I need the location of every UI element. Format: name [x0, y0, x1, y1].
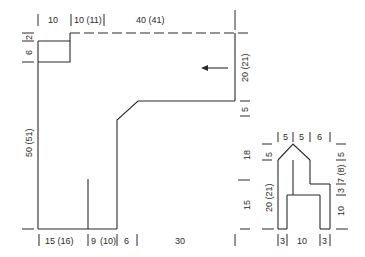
dim-s-bottom-2: 10: [297, 236, 307, 246]
small-right-dimensions: 5 7 (8) 3 10: [336, 144, 348, 229]
small-piece-outline: [278, 144, 330, 229]
dim-s-top-2: 5: [299, 132, 304, 142]
main-top-dimensions: 10 10 (11) 40 (41): [38, 10, 248, 33]
main-bottom-dimensions: 15 (16) 9 (10) 6 30: [39, 229, 250, 246]
small-bottom-dimensions: 3 10 3: [278, 234, 330, 246]
dim-s-top-1: 5: [283, 132, 288, 142]
dim-left-2: 6: [24, 50, 34, 55]
dim-s-bottom-3: 3: [322, 236, 327, 246]
dim-s-left-3: 15: [242, 200, 252, 210]
dim-bottom-4: 6: [124, 236, 129, 246]
dim-right-2: 5: [240, 107, 250, 112]
arrow-left-icon: [201, 65, 228, 71]
dim-left-3: 50 (51): [24, 128, 34, 157]
dim-s-right-4: 10: [336, 206, 346, 216]
dim-s-top-3: 6: [317, 132, 322, 142]
pattern-diagram: 10 10 (11) 40 (41) 2 6 50 (51) 20 (21) 5…: [0, 0, 365, 257]
dim-s-left-4: 20 (21): [264, 183, 274, 212]
dim-bottom-5: 30: [175, 236, 185, 246]
dim-top-2: 10 (11): [74, 15, 102, 25]
dim-right-1: 20 (21): [240, 53, 250, 82]
small-top-dimensions: 5 5 6: [278, 132, 330, 142]
main-piece-outline: [38, 33, 235, 229]
small-left-dimensions: 18 5 15 20 (21): [238, 144, 274, 229]
dim-top-1: 10: [48, 15, 58, 25]
dim-s-right-1: 5: [336, 152, 346, 157]
dim-s-bottom-1: 3: [280, 236, 285, 246]
dim-bottom-1: 15 (16): [45, 236, 74, 246]
dim-s-left-1: 18: [242, 150, 252, 160]
dim-s-right-2: 7 (8): [336, 164, 346, 183]
dim-bottom-3: (10): [100, 236, 116, 246]
dim-s-left-2: 5: [264, 152, 274, 157]
dim-top-3: 40 (41): [136, 15, 165, 25]
dim-bottom-2: 9: [91, 236, 96, 246]
dim-s-right-3: 3: [336, 188, 346, 193]
dim-left-1: 2: [24, 35, 34, 40]
main-left-dimensions: 2 6 50 (51): [22, 33, 34, 229]
main-right-dimensions: 20 (21) 5: [240, 53, 250, 116]
